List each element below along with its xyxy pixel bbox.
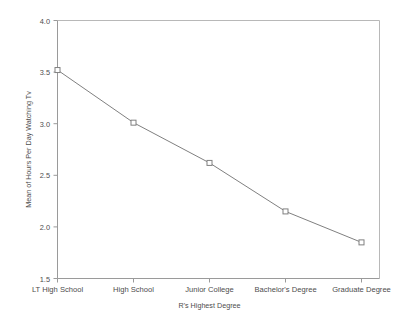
data-point-marker <box>359 240 364 245</box>
y-axis-title: Mean of Hours Per Day Watching Tv <box>24 91 33 208</box>
x-tick-label: Bachelor's Degree <box>254 285 316 294</box>
chart-background <box>0 0 412 326</box>
y-tick-label: 4.0 <box>40 17 50 26</box>
data-point-marker <box>207 160 212 165</box>
y-tick-label: 3.5 <box>40 68 50 77</box>
x-tick-label: High School <box>113 285 154 294</box>
x-tick-label: Junior College <box>185 285 234 294</box>
data-point-marker <box>55 68 60 73</box>
y-tick-label: 1.5 <box>40 275 50 284</box>
y-tick-label: 2.0 <box>40 223 50 232</box>
y-tick-label: 3.0 <box>40 120 50 129</box>
x-axis-title: R's Highest Degree <box>178 301 240 310</box>
data-point-marker <box>131 120 136 125</box>
x-tick-label: LT High School <box>32 285 84 294</box>
chart-container: 4.0 3.5 3.0 2.5 2.0 1.5 Mean of Hours Pe… <box>0 0 412 326</box>
y-tick-label: 2.5 <box>40 171 50 180</box>
line-chart: 4.0 3.5 3.0 2.5 2.0 1.5 Mean of Hours Pe… <box>0 0 412 326</box>
x-tick-label: Graduate Degree <box>332 285 391 294</box>
data-point-marker <box>283 209 288 214</box>
